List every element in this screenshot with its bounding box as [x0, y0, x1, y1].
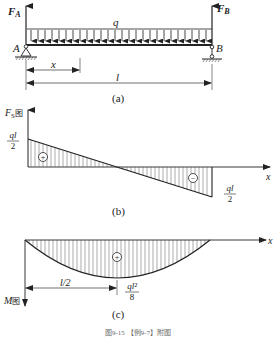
- shear-bottom-value: ql 2: [224, 183, 236, 204]
- figure-caption: 图9-15 【例9-7】附图: [105, 328, 171, 337]
- moment-axis-label: M图: [3, 295, 20, 306]
- svg-text:ql²: ql²: [127, 281, 137, 291]
- reaction-label-b: FB: [216, 2, 230, 16]
- moment-max-value: ql² 8: [125, 281, 139, 302]
- dimension-l-label: l: [116, 71, 119, 83]
- panel-b-label: (b): [112, 205, 125, 218]
- svg-text:2: 2: [228, 194, 233, 204]
- panel-a-label: (a): [112, 92, 125, 105]
- distributed-load-arrows-icon: [31, 30, 206, 41]
- shear-top-value: ql 2: [7, 130, 19, 151]
- beam-diagram-figure: FA FB: [0, 0, 276, 340]
- svg-text:8: 8: [130, 292, 135, 302]
- reaction-label-a: FA: [7, 5, 21, 19]
- shear-line: [28, 139, 212, 197]
- svg-text:+: +: [115, 253, 120, 262]
- panel-c-label: (c): [112, 308, 125, 321]
- svg-text:−: −: [191, 174, 196, 183]
- shear-x-label: x: [265, 171, 271, 182]
- dimension-x-label: x: [50, 58, 56, 70]
- svg-text:ql: ql: [226, 183, 234, 193]
- panel-c-moment-diagram: x M图 + l/2 ql² 8 (c): [3, 235, 273, 321]
- svg-text:+: +: [41, 153, 46, 162]
- load-label: q: [113, 16, 119, 28]
- panel-b-shear-diagram: FS图 x + − ql 2 ql 2: [4, 107, 271, 205]
- shear-axis-label: FS图: [4, 107, 23, 120]
- half-length-label: l/2: [60, 277, 71, 288]
- moment-x-label: x: [267, 235, 273, 246]
- panel-a-beam: FA FB: [7, 2, 230, 105]
- support-label-a: A: [12, 42, 20, 54]
- svg-text:ql: ql: [9, 130, 17, 140]
- svg-text:2: 2: [11, 141, 16, 151]
- support-label-b: B: [216, 42, 223, 54]
